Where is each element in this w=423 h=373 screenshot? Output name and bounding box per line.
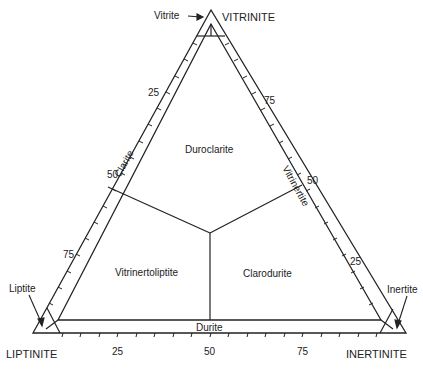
- boundary-left: [108, 187, 210, 233]
- bottom-tick-50: 50: [204, 346, 216, 357]
- right-tick-25: 25: [350, 256, 362, 267]
- edge-label-clarite: Clarite: [112, 148, 136, 179]
- region-duroclarite: Duroclarite: [185, 144, 234, 155]
- left-tick-75: 75: [63, 249, 75, 260]
- left-tick-25: 25: [148, 87, 160, 98]
- ternary-diagram: VITRINITE LIPTINITE INERTINITE Vitrite L…: [0, 0, 423, 373]
- region-clarodurite: Clarodurite: [243, 268, 292, 279]
- right-tick-50: 50: [307, 175, 319, 186]
- callout-liptite: Liptite: [9, 283, 36, 294]
- region-vitrinertoliptite: Vitrinertoliptite: [115, 267, 179, 278]
- boundary-right: [210, 185, 302, 233]
- outer-triangle: [33, 10, 406, 333]
- bottom-tick-25: 25: [112, 346, 124, 357]
- callout-inertite: Inertite: [387, 284, 418, 295]
- apex-label-vitrinite: VITRINITE: [222, 11, 275, 23]
- right-tick-75: 75: [264, 95, 276, 106]
- callout-vitrite: Vitrite: [154, 10, 180, 21]
- apex-label-liptinite: LIPTINITE: [6, 348, 57, 360]
- bottom-tick-75: 75: [297, 346, 309, 357]
- edge-label-durite: Durite: [196, 322, 223, 333]
- apex-label-inertinite: INERTINITE: [346, 348, 407, 360]
